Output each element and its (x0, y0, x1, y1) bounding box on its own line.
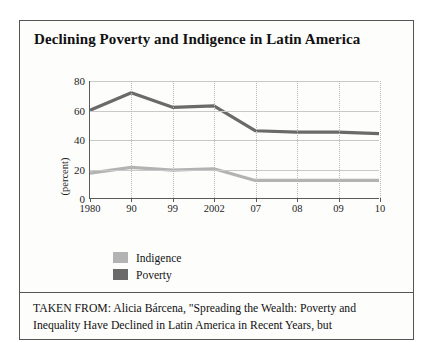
x-tick-label: 10 (375, 203, 386, 214)
x-tick-label: 08 (292, 203, 303, 214)
y-axis-label: (percent) (59, 147, 70, 207)
figure-container: Declining Poverty and Indigence in Latin… (19, 20, 414, 340)
x-tick-mark (90, 198, 91, 202)
legend-label: Indigence (136, 252, 181, 264)
x-gridline (380, 81, 381, 198)
y-gridline (90, 81, 379, 82)
caption-divider (20, 292, 413, 293)
legend-swatch-icon (113, 269, 128, 280)
figure-caption: TAKEN FROM: Alicia Bárcena, "Spreading t… (33, 301, 402, 335)
legend-swatch-icon (113, 252, 128, 263)
x-tick-mark (173, 198, 174, 202)
x-tick-mark (339, 198, 340, 202)
x-tick-label: 07 (250, 203, 261, 214)
legend-item-indigence: Indigence (113, 249, 181, 266)
legend-label: Poverty (136, 269, 172, 281)
x-tick-label: 90 (126, 203, 137, 214)
x-gridline (297, 81, 298, 198)
x-tick-label: 1980 (80, 203, 101, 214)
plot-area: 02040608019809099200207080910 (89, 81, 379, 199)
x-tick-mark (131, 198, 132, 202)
x-tick-label: 2002 (204, 203, 225, 214)
x-gridline (214, 81, 215, 198)
x-gridline (339, 81, 340, 198)
x-gridline (131, 81, 132, 198)
y-tick-label: 80 (74, 75, 85, 87)
y-tick-label: 20 (74, 164, 85, 176)
y-gridline (90, 111, 379, 112)
y-tick-label: 40 (74, 134, 85, 146)
x-gridline (173, 81, 174, 198)
x-tick-mark (380, 198, 381, 202)
x-tick-mark (214, 198, 215, 202)
x-tick-label: 99 (168, 203, 179, 214)
y-gridline (90, 140, 379, 141)
x-gridline (256, 81, 257, 198)
x-tick-mark (256, 198, 257, 202)
legend-item-poverty: Poverty (113, 266, 181, 283)
x-tick-mark (297, 198, 298, 202)
figure-title: Declining Poverty and Indigence in Latin… (34, 31, 360, 48)
series-line-poverty (90, 93, 379, 134)
x-tick-label: 09 (333, 203, 344, 214)
chart-area: (percent) 02040608019809099200207080910 (20, 63, 413, 245)
y-tick-label: 60 (74, 105, 85, 117)
chart-legend: IndigencePoverty (113, 249, 181, 283)
y-gridline (90, 170, 379, 171)
